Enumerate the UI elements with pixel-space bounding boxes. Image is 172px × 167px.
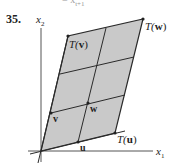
- Tw-close: ): [163, 20, 167, 32]
- x2-axis-label: x2: [36, 14, 44, 28]
- x1-sub: 1: [161, 152, 165, 160]
- label-Tu: T(u): [117, 134, 137, 145]
- x2-sub: 2: [41, 20, 45, 28]
- label-v: v: [53, 114, 58, 124]
- x1-axis-label: x1: [156, 146, 164, 160]
- Tu-close: ): [133, 133, 137, 145]
- label-w: w: [90, 104, 97, 114]
- label-u: u: [80, 143, 86, 153]
- Tw-fn: T(: [145, 20, 155, 32]
- label-Tw: T(w): [145, 21, 166, 32]
- Tv-fn: T(: [69, 38, 79, 50]
- Tu-fn: T(: [117, 133, 127, 145]
- Tw-arg: w: [155, 20, 163, 32]
- label-Tv: T(v): [69, 39, 88, 50]
- Tv-close: ): [84, 38, 88, 50]
